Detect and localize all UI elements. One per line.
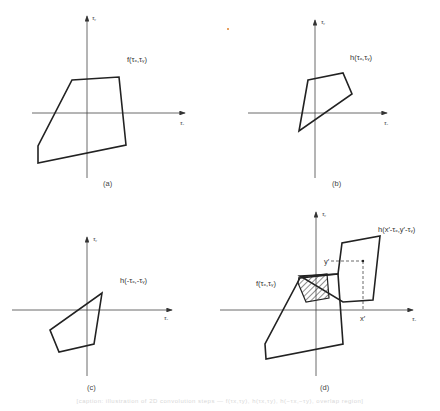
- y-axis-label: τᵧ: [92, 14, 97, 22]
- f-shape: [38, 77, 126, 163]
- function-label: h(-τₓ,-τᵧ): [120, 276, 148, 285]
- h-shape: [299, 73, 352, 131]
- x-prime-label: x′: [360, 314, 366, 323]
- point-x-prime-y-prime: [362, 260, 364, 262]
- y-axis-label: τᵧ: [321, 18, 326, 26]
- convolution-figure: τᵧ τₓ f(τₓ,τᵧ) (a) τᵧ τₓ h(τₓ,τᵧ) (b) τᵧ…: [0, 0, 440, 411]
- function-label: h(τₓ,τᵧ): [350, 53, 373, 62]
- x-axis-label: τₓ: [180, 119, 185, 127]
- y-prime-label: y′: [324, 257, 330, 266]
- y-axis-label: τᵧ: [322, 210, 327, 218]
- x-axis-label: τₓ: [384, 119, 389, 127]
- function-label: f(τₓ,τᵧ): [127, 55, 147, 64]
- panel-label-d: (d): [320, 383, 330, 392]
- panel-b: τᵧ τₓ h(τₓ,τᵧ) (b): [248, 18, 389, 188]
- panel-c: τᵧ τₓ h(-τₓ,-τᵧ) (c): [12, 235, 172, 392]
- x-axis-label: τₓ: [412, 315, 417, 323]
- panel-a: τᵧ τₓ f(τₓ,τᵧ) (a): [32, 14, 185, 188]
- function-label-h: h(x′-τₓ,y′-τᵧ): [378, 225, 416, 234]
- panel-label-b: (b): [332, 179, 342, 188]
- figure-caption: [caption: illustration of 2D convolution…: [0, 398, 440, 404]
- panel-label-a: (a): [103, 179, 113, 188]
- y-axis-label: τᵧ: [93, 235, 98, 243]
- panel-d: τᵧ τₓ y′ x′ f(τₓ,τᵧ) h(x′-τₓ,y′-τᵧ) (d): [220, 210, 417, 392]
- x-axis-label: τₓ: [164, 314, 169, 322]
- function-label-f: f(τₓ,τᵧ): [256, 279, 276, 288]
- panel-label-c: (c): [87, 383, 96, 392]
- h-flipped-shape: [50, 293, 102, 352]
